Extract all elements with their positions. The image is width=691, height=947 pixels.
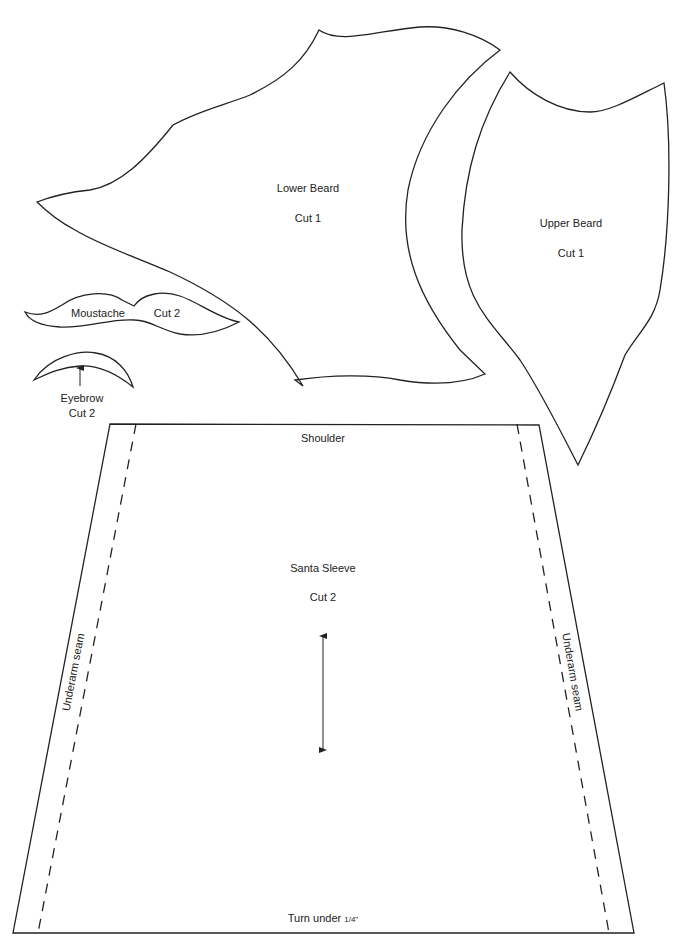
sleeve-cut: Cut 2 <box>310 591 336 603</box>
sleeve-label: Santa Sleeve <box>290 562 355 574</box>
lower-beard-outline <box>37 27 500 386</box>
eyebrow-label: Eyebrow <box>61 392 104 404</box>
right-seam-dashed-line <box>517 424 609 933</box>
moustache-cut: Cut 2 <box>154 307 180 319</box>
moustache-outline <box>25 293 239 335</box>
pattern-sheet <box>0 0 691 947</box>
moustache-label: Moustache <box>71 307 125 319</box>
hem-text: Turn under <box>288 912 341 924</box>
upper-beard-cut: Cut 1 <box>558 247 584 259</box>
sleeve-shoulder-label: Shoulder <box>301 432 345 444</box>
sleeve-hem-label: Turn under 1/4" <box>288 912 358 924</box>
lower-beard-label: Lower Beard <box>277 182 339 194</box>
lower-beard-cut: Cut 1 <box>295 212 321 224</box>
left-seam-dashed-line <box>38 424 136 933</box>
hem-fraction: 1/4" <box>344 915 358 924</box>
upper-beard-outline <box>462 72 669 465</box>
eyebrow-outline <box>34 352 133 387</box>
upper-beard-label: Upper Beard <box>540 217 602 229</box>
eyebrow-cut: Cut 2 <box>69 407 95 419</box>
